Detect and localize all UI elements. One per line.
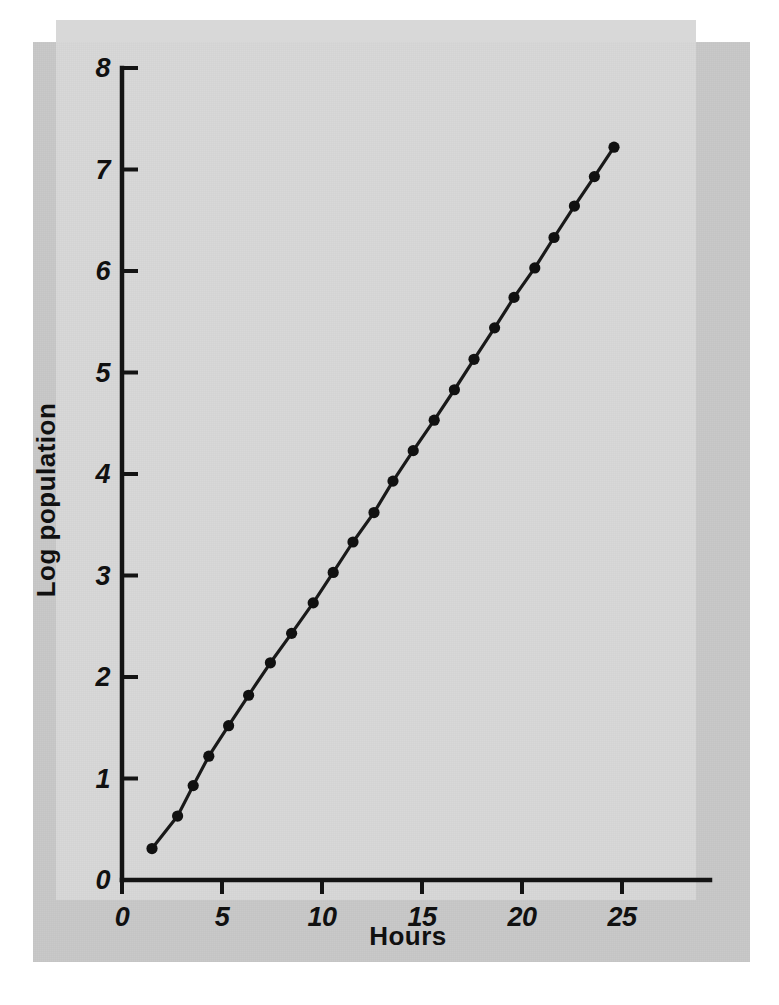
- data-line-log-population: [152, 147, 614, 848]
- data-point: [429, 415, 440, 426]
- y-tick-label: 7: [95, 154, 110, 185]
- y-tick-label: 3: [95, 560, 110, 591]
- data-point: [286, 628, 297, 639]
- y-tick-label: 8: [95, 53, 110, 84]
- data-point: [188, 780, 199, 791]
- data-point: [387, 476, 398, 487]
- x-tick-label: 25: [607, 902, 636, 933]
- data-point: [489, 322, 500, 333]
- data-point: [146, 843, 157, 854]
- x-axis-title: Hours: [369, 921, 447, 952]
- x-tick-label: 0: [115, 902, 130, 933]
- chart-svg: [0, 0, 779, 1005]
- y-tick-label: 2: [95, 662, 110, 693]
- figure-canvas: 012345678 0510152025 Hours Log populatio…: [0, 0, 779, 1005]
- data-point: [468, 354, 479, 365]
- data-point: [203, 751, 214, 762]
- y-axis-title: Log population: [31, 403, 62, 598]
- x-tick-label: 10: [307, 902, 336, 933]
- data-point: [243, 690, 254, 701]
- data-point: [347, 536, 358, 547]
- data-point: [548, 232, 559, 243]
- y-tick-label: 0: [95, 865, 110, 896]
- x-tick-label: 20: [507, 902, 536, 933]
- data-point: [408, 445, 419, 456]
- data-point: [449, 384, 460, 395]
- tick-marks-group: [122, 68, 622, 894]
- y-tick-label: 5: [95, 357, 110, 388]
- data-point: [589, 171, 600, 182]
- data-point: [172, 810, 183, 821]
- x-tick-label: 5: [215, 902, 230, 933]
- y-tick-label: 4: [95, 459, 110, 490]
- data-point: [265, 657, 276, 668]
- data-point: [368, 507, 379, 518]
- data-point: [529, 262, 540, 273]
- data-point: [508, 292, 519, 303]
- data-point: [223, 720, 234, 731]
- y-tick-label: 1: [95, 763, 110, 794]
- data-series-group: [146, 142, 619, 855]
- data-point: [569, 200, 580, 211]
- data-point: [608, 142, 619, 153]
- data-point: [328, 567, 339, 578]
- data-point: [308, 597, 319, 608]
- y-tick-label: 6: [95, 256, 110, 287]
